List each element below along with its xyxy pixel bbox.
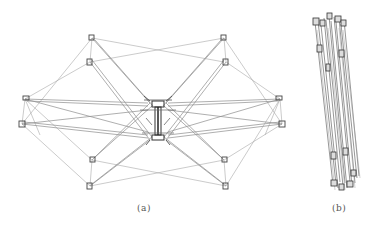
radial-struts [22, 38, 282, 186]
folded-structure-diagram [295, 0, 371, 228]
joint-nodes [19, 35, 285, 189]
deployed-truss-drawing [0, 0, 300, 228]
outer-cables [22, 38, 282, 186]
folded-truss-drawing [295, 0, 371, 228]
caption-a: (a) [137, 203, 151, 213]
deployed-structure-diagram [0, 0, 300, 228]
caption-b: (b) [332, 203, 346, 213]
